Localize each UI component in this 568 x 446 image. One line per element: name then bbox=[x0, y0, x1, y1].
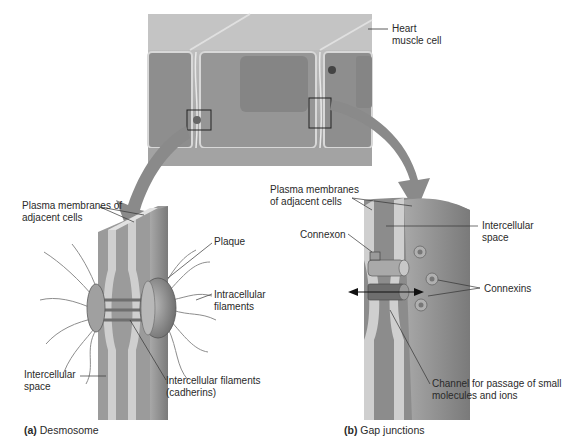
label-desmosome-plasma-membranes: Plasma membranes of adjacent cells bbox=[22, 200, 132, 223]
caption-text-desmosome: Desmosome bbox=[40, 424, 99, 436]
caption-text-gap-junctions: Gap junctions bbox=[360, 424, 424, 436]
label-intracellular-filaments: Intracellular filaments bbox=[214, 289, 278, 312]
label-desmosome-intercellular-space: Intercellular space bbox=[24, 369, 84, 392]
label-connexon: Connexon bbox=[300, 229, 346, 241]
caption-letter-b: (b) bbox=[344, 424, 357, 436]
label-channel: Channel for passage of small molecules a… bbox=[432, 378, 562, 401]
label-gap-intercellular-space: Intercellular space bbox=[482, 220, 532, 243]
caption-desmosome: (a) Desmosome bbox=[24, 424, 99, 436]
label-heart-muscle-cell: Heart muscle cell bbox=[392, 23, 442, 46]
label-intercellular-filaments-cadherins: Intercellular filaments (cadherins) bbox=[166, 375, 276, 398]
label-plaque: Plaque bbox=[214, 236, 245, 248]
label-connexins: Connexins bbox=[484, 283, 531, 295]
caption-gap-junctions: (b) Gap junctions bbox=[344, 424, 425, 436]
label-gap-plasma-membranes: Plasma membranes of adjacent cells bbox=[270, 184, 360, 207]
caption-letter-a: (a) bbox=[24, 424, 37, 436]
heart-muscle-cells-illustration bbox=[148, 14, 388, 166]
